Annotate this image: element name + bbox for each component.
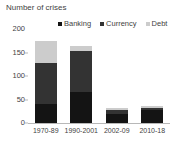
bar-group[interactable] [35,41,57,123]
plot-area [28,29,170,123]
x-tick-label: 1970-89 [33,126,59,135]
bar-group[interactable] [106,108,128,123]
bar-segment-banking[interactable] [141,110,163,123]
y-tick-label: 50 [17,96,25,104]
legend-item-debt[interactable]: Debt [146,20,168,28]
legend-item-currency[interactable]: Currency [100,20,136,28]
x-tick-label: 2010-18 [139,126,165,135]
y-tick-label: 150 [12,49,25,57]
x-axis-line [28,123,170,124]
bar-segment-debt[interactable] [35,41,57,63]
bar-group[interactable] [141,106,163,123]
legend-label-currency: Currency [106,20,136,28]
legend-swatch-banking-icon [58,22,62,26]
x-tick-label: 1990-2001 [65,126,98,135]
bar-segment-banking[interactable] [106,114,128,123]
chart-container: Number of crises Banking Currency Debt 0… [0,0,174,145]
legend-label-banking: Banking [64,20,91,28]
y-tick-label: 100 [12,72,25,80]
y-axis: 050100150200 [0,0,25,145]
x-axis: 1970-891990-20012002-092010-18 [28,126,170,140]
x-tick-label: 2002-09 [104,126,130,135]
legend-label-debt: Debt [152,20,168,28]
bar-segment-currency[interactable] [35,63,57,104]
bar-group[interactable] [70,46,92,123]
bar-segment-banking[interactable] [35,104,57,123]
legend-swatch-debt-icon [146,22,150,26]
y-tick-label: 200 [12,25,25,33]
bar-segment-currency[interactable] [70,51,92,92]
chart-legend: Banking Currency Debt [58,20,167,28]
legend-swatch-currency-icon [100,22,104,26]
legend-item-banking[interactable]: Banking [58,20,91,28]
bar-segment-banking[interactable] [70,92,92,123]
